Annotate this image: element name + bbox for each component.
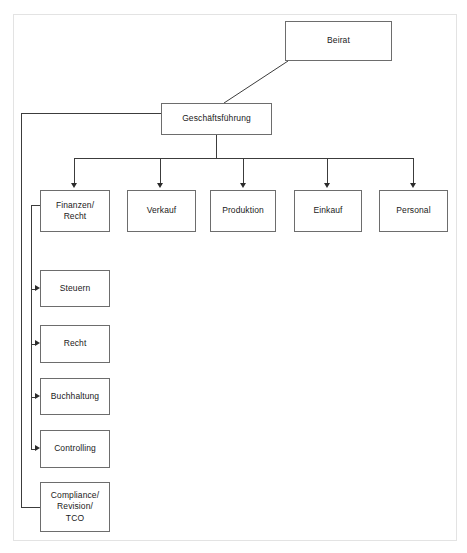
node-beirat-label: Beirat xyxy=(327,35,350,46)
arrowhead-personal xyxy=(410,183,416,188)
connector-drop-einkauf xyxy=(327,158,328,183)
node-verkauf[interactable]: Verkauf xyxy=(127,190,196,232)
connector-drop-verkauf xyxy=(160,158,161,183)
node-finanzen-recht-label: Finanzen/ Recht xyxy=(56,200,94,222)
arrowhead-finanzen xyxy=(71,183,77,188)
connector-drop-personal xyxy=(413,158,414,183)
node-buchhaltung-label: Buchhaltung xyxy=(51,391,99,402)
node-verkauf-label: Verkauf xyxy=(147,205,177,216)
connector-drop-produktion xyxy=(243,158,244,183)
connector-gf-left-lead xyxy=(21,113,161,114)
node-steuern-label: Steuern xyxy=(60,283,90,294)
node-controlling[interactable]: Controlling xyxy=(40,430,110,468)
node-einkauf[interactable]: Einkauf xyxy=(294,190,362,232)
node-beirat[interactable]: Beirat xyxy=(285,21,392,61)
arrowhead-verkauf xyxy=(157,183,163,188)
org-chart-canvas: Beirat Geschäftsführung Finanzen/ Recht … xyxy=(0,0,467,553)
node-recht-label: Recht xyxy=(64,338,87,349)
node-geschaeftsfuehrung-label: Geschäftsführung xyxy=(182,113,251,124)
node-geschaeftsfuehrung[interactable]: Geschäftsführung xyxy=(161,103,272,135)
arrowhead-produktion xyxy=(240,183,246,188)
connector-inner-rail xyxy=(31,205,32,449)
arrowhead-einkauf xyxy=(324,183,330,188)
node-controlling-label: Controlling xyxy=(54,443,96,454)
node-personal-label: Personal xyxy=(396,205,430,216)
node-finanzen-recht[interactable]: Finanzen/ Recht xyxy=(40,190,110,232)
connector-gf-stem xyxy=(216,135,217,158)
node-personal[interactable]: Personal xyxy=(379,190,448,232)
connector-drop-finanzen xyxy=(74,158,75,183)
node-buchhaltung[interactable]: Buchhaltung xyxy=(40,378,110,415)
connector-division-bus xyxy=(74,158,414,159)
node-compliance-revision-tco-label: Compliance/ Revision/ TCO xyxy=(51,490,99,524)
node-compliance-revision-tco[interactable]: Compliance/ Revision/ TCO xyxy=(40,482,110,532)
node-recht[interactable]: Recht xyxy=(40,325,110,363)
connector-rail-to-compliance xyxy=(21,507,40,508)
node-einkauf-label: Einkauf xyxy=(313,205,342,216)
node-produktion-label: Produktion xyxy=(222,205,264,216)
node-steuern[interactable]: Steuern xyxy=(40,270,110,307)
connector-finanzen-left-lead xyxy=(31,205,40,206)
connector-outer-rail xyxy=(21,113,22,507)
node-produktion[interactable]: Produktion xyxy=(210,190,276,232)
